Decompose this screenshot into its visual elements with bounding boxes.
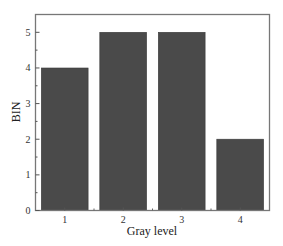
bar-3 (158, 32, 205, 210)
y-axis: 012345 (26, 27, 40, 216)
x-tick-label: 4 (238, 214, 243, 225)
bar-chart: 012345 1234 Gray level BIN (0, 0, 283, 246)
y-tick-label: 1 (26, 169, 31, 180)
y-tick-label: 5 (26, 27, 31, 38)
y-axis-title: BIN (9, 101, 23, 122)
bars-group (41, 32, 263, 210)
y-tick-label: 0 (26, 205, 31, 216)
bar-2 (100, 32, 147, 210)
y-tick-label: 4 (26, 62, 31, 73)
bar-1 (41, 68, 88, 211)
y-tick-label: 3 (26, 98, 31, 109)
x-tick-label: 1 (62, 214, 67, 225)
y-tick-label: 2 (26, 134, 31, 145)
x-axis-title: Gray level (127, 224, 178, 238)
x-tick-label: 3 (179, 214, 184, 225)
x-tick-label: 2 (121, 214, 126, 225)
bar-4 (217, 139, 264, 210)
